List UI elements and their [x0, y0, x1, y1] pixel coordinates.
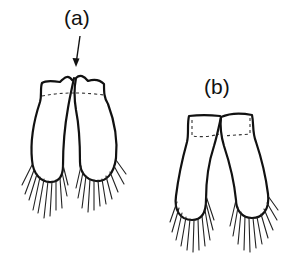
lobe-right-b — [221, 114, 269, 218]
lobe-right-a — [75, 76, 117, 181]
dashed-line-b-right — [224, 118, 250, 136]
panel-b: (b) — [170, 75, 278, 252]
panel-b-label: (b) — [204, 75, 230, 98]
arrow-icon — [73, 36, 81, 67]
diagram-canvas: (a) — [0, 0, 298, 262]
panel-a: (a) — [22, 6, 126, 218]
bristles-b-left — [170, 196, 214, 252]
dashed-line-b-left — [192, 120, 219, 137]
bristles-a-right — [76, 160, 126, 212]
dashed-line-a-right — [76, 93, 104, 95]
dashed-line-a-left — [42, 93, 74, 96]
panel-a-label: (a) — [64, 6, 90, 29]
lobe-left-b — [176, 115, 221, 220]
